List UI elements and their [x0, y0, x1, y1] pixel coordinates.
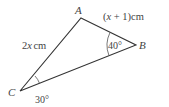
triangle-abc — [20, 18, 136, 91]
vertex-label-a: A — [74, 4, 82, 16]
angle-label-c: 30° — [35, 94, 49, 105]
side-label-ac: 2xcm — [22, 40, 46, 51]
side-label-ab: (x + 1)cm — [103, 11, 144, 23]
vertex-label-c: C — [8, 86, 16, 98]
angle-arc-c — [35, 76, 40, 83]
angle-label-b: 40° — [108, 40, 122, 51]
vertex-label-b: B — [139, 39, 146, 51]
triangle-diagram: A B C (x + 1)cm 2xcm 40° 30° — [0, 0, 169, 107]
